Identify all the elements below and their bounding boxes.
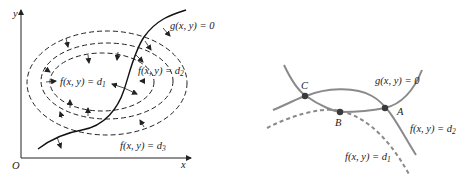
right-panel: C B A g(x, y) = 0 f(x, y) = d2 f(x, y) =… xyxy=(267,65,456,176)
point-label-a: A xyxy=(396,106,404,117)
contour-label-d1: f(x, y) = d1 xyxy=(60,76,106,89)
point-c xyxy=(302,93,308,99)
x-axis-label: x xyxy=(180,159,186,170)
point-label-b: B xyxy=(335,117,342,128)
contour-label-right-d2: f(x, y) = d2 xyxy=(410,123,456,136)
left-panel: y x O xyxy=(12,8,215,171)
contour-label-d3: f(x, y) = d3 xyxy=(120,140,166,153)
constraint-label-right: g(x, y) = 0 xyxy=(375,75,420,87)
lagrange-diagram: y x O xyxy=(0,0,464,185)
y-axis-label: y xyxy=(12,8,18,19)
contour-label-right-d1: f(x, y) = d1 xyxy=(345,151,391,164)
constraint-label-left: g(x, y) = 0 xyxy=(170,20,215,32)
point-a xyxy=(382,105,388,111)
point-label-c: C xyxy=(301,80,309,91)
contour-d2-solid xyxy=(273,89,416,155)
point-b xyxy=(337,109,343,115)
origin-label: O xyxy=(12,160,20,171)
contour-label-d2: f(x, y) = d2 xyxy=(138,65,184,78)
